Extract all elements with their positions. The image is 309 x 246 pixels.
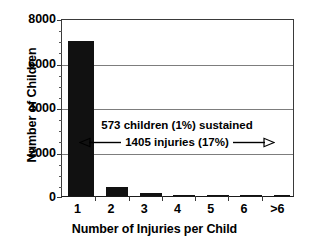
bar-category-gt6 bbox=[274, 195, 290, 196]
x-axis-tick-labels: 1 2 3 4 5 6 >6 bbox=[61, 203, 294, 219]
x-tick-label-2: 2 bbox=[107, 203, 114, 217]
x-tick-label-4: 4 bbox=[174, 203, 181, 217]
x-tick-mark-3 bbox=[162, 196, 163, 201]
y-tick-label-0: 0 bbox=[10, 191, 56, 204]
bar-category-4 bbox=[173, 195, 195, 196]
y-tick-label-6000: 6000 bbox=[10, 57, 56, 70]
plot-area: 573 children (1%) sustained 1405 injurie… bbox=[61, 19, 294, 197]
annotation-line-2-text: 1405 injuries (17%) bbox=[125, 135, 229, 151]
x-tick-mark-2 bbox=[129, 196, 130, 201]
bar-category-3 bbox=[140, 193, 162, 196]
y-tick-label-2000: 2000 bbox=[10, 146, 56, 159]
bar-series bbox=[62, 20, 293, 196]
arrow-left-icon bbox=[79, 137, 121, 148]
x-tick-label-3: 3 bbox=[141, 203, 148, 217]
x-tick-label-5: 5 bbox=[207, 203, 214, 217]
x-tick-label-6: 6 bbox=[241, 203, 248, 217]
y-tick-label-8000: 8000 bbox=[10, 13, 56, 26]
annotation-line-1: 573 children (1%) sustained bbox=[64, 118, 290, 134]
y-tick-label-4000: 4000 bbox=[10, 102, 56, 115]
x-tick-mark-1 bbox=[95, 196, 96, 201]
bar-category-6 bbox=[240, 195, 262, 196]
x-tick-mark-4 bbox=[195, 196, 196, 201]
x-axis-title: Number of Injuries per Child bbox=[0, 222, 309, 236]
arrow-right-icon bbox=[233, 137, 275, 148]
bar-category-2 bbox=[106, 187, 128, 196]
bar-category-5 bbox=[207, 195, 229, 196]
annotation-line-2: 1405 injuries (17%) bbox=[64, 135, 290, 151]
x-tick-label-1: 1 bbox=[74, 203, 81, 217]
x-tick-mark-5 bbox=[228, 196, 229, 201]
y-axis-tick-labels: 8000 6000 4000 2000 0 bbox=[10, 19, 56, 197]
x-tick-mark-6 bbox=[262, 196, 263, 201]
bar-chart-figure: Number of Children 8000 6000 4000 2000 0 bbox=[0, 0, 309, 246]
chart-annotation: 573 children (1%) sustained 1405 injurie… bbox=[64, 118, 290, 150]
x-tick-label-gt6: >6 bbox=[270, 203, 284, 217]
y-major-tick-0 bbox=[57, 197, 62, 198]
